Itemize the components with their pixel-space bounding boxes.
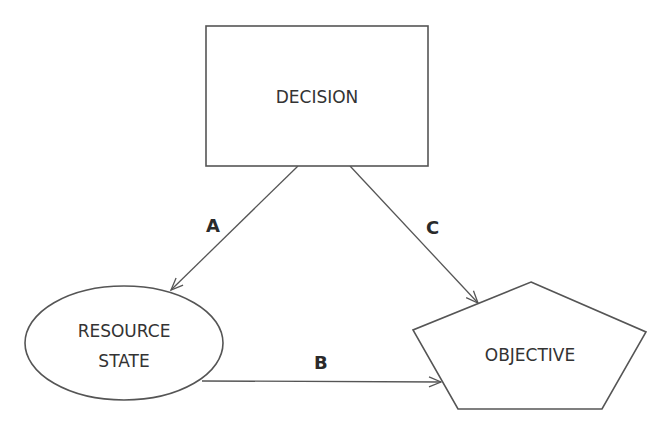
edge-b-label: B <box>314 352 328 373</box>
node-resource-state: RESOURCE STATE <box>25 286 223 400</box>
decision-label: DECISION <box>276 87 359 107</box>
objective-label: OBJECTIVE <box>485 345 575 365</box>
edge-b: B <box>202 352 441 382</box>
node-decision: DECISION <box>206 26 428 166</box>
diagram-canvas: A C B DECISION RESOURCE STATE OBJECTIVE <box>0 0 666 431</box>
node-objective: OBJECTIVE <box>413 282 646 409</box>
edge-b-line <box>202 381 441 382</box>
edge-c-line <box>350 166 478 303</box>
edge-c-label: C <box>426 217 439 238</box>
edge-a: A <box>171 166 298 290</box>
edge-c: C <box>350 166 478 303</box>
resource-state-label-line2: STATE <box>98 351 149 371</box>
edge-a-label: A <box>206 215 220 236</box>
diagram-svg: A C B DECISION RESOURCE STATE OBJECTIVE <box>0 0 666 431</box>
edge-a-line <box>171 166 298 290</box>
resource-state-label-line1: RESOURCE <box>78 321 171 341</box>
resource-state-ellipse <box>25 286 223 400</box>
